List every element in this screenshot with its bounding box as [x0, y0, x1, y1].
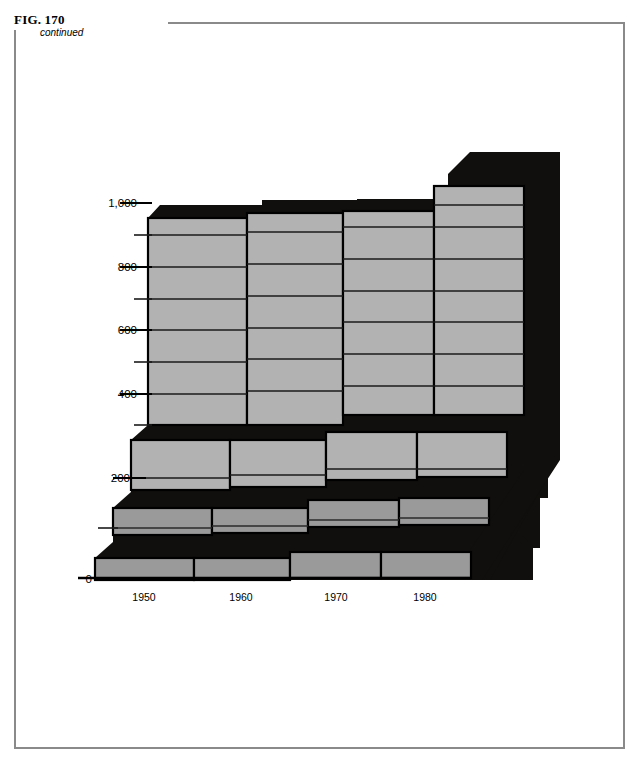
row1-bar-1980 — [381, 552, 471, 578]
right-depth-wall — [524, 152, 560, 430]
row3-bar-1950 — [131, 440, 230, 490]
row4-bar-1970 — [343, 211, 434, 415]
row1-bar-1950 — [95, 558, 194, 580]
row4-bar-1980 — [434, 186, 524, 415]
xtick-label-1970: 1970 — [324, 591, 348, 603]
row1-bar-1970 — [290, 552, 381, 578]
row4-bar-1960 — [247, 213, 343, 425]
row2-bar-1950 — [113, 508, 212, 535]
row3-bar-1970 — [326, 432, 417, 480]
xtick-label-1950: 1950 — [132, 591, 156, 603]
xtick-label-1960: 1960 — [229, 591, 253, 603]
stepped-3d-area-chart: 1,000 800 600 400 200 0 1950 1960 1970 1… — [0, 0, 640, 763]
ytick-label-600: 600 — [118, 324, 137, 336]
row4-bars — [148, 186, 524, 425]
ytick-label-800: 800 — [118, 261, 137, 273]
row3-bar-1960 — [230, 440, 326, 487]
ytick-label-1000: 1,000 — [108, 197, 137, 209]
row2-bar-1980 — [399, 498, 489, 525]
figure-page: FIG. 170 continued — [0, 0, 640, 763]
ytick-label-400: 400 — [118, 388, 137, 400]
ytick-label-200: 200 — [111, 472, 130, 484]
row2-bar-1960 — [212, 508, 308, 533]
ytick-label-0: 0 — [86, 573, 92, 585]
row1-bar-1960 — [194, 558, 290, 580]
xtick-label-1980: 1980 — [413, 591, 437, 603]
row2-bar-1970 — [308, 500, 399, 527]
row3-bar-1980 — [417, 432, 507, 477]
